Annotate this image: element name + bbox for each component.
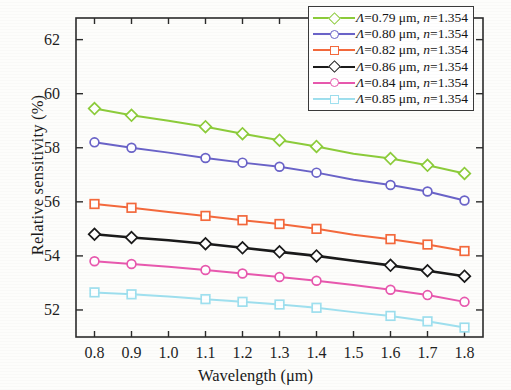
data-marker [201,295,210,304]
legend-swatch [313,76,355,90]
data-marker [275,273,284,282]
legend-item[interactable]: Λ=0.79 μm, n=1.354 [313,10,468,26]
legend-swatch [313,43,355,57]
legend-label: Λ=0.86 μm, n=1.354 [356,59,468,75]
legend-marker [328,12,341,25]
data-marker [385,153,397,165]
data-marker [275,220,284,229]
data-marker [274,134,286,146]
data-marker [386,235,395,244]
data-marker [90,200,99,209]
data-marker [459,168,471,180]
data-marker [201,154,210,163]
legend-swatch [313,60,355,74]
data-marker [422,265,434,277]
legend-item[interactable]: Λ=0.85 μm, n=1.354 [313,91,468,107]
data-marker [201,212,210,221]
data-marker [90,138,99,147]
data-marker [311,250,323,262]
legend-swatch [313,92,355,106]
data-marker [312,225,321,234]
chart-figure: 525456586062 0.80.91.01.11.21.31.41.51.6… [0,0,511,390]
data-marker [423,291,432,300]
legend-marker [328,60,341,73]
y-axis-title: Relative sensitivity (%) [28,45,48,305]
data-marker [238,158,247,167]
data-marker [90,288,99,297]
data-marker [89,103,101,115]
legend-marker [330,46,339,55]
legend-label: Λ=0.79 μm, n=1.354 [356,10,468,26]
data-marker [386,312,395,321]
series-line [90,257,469,306]
data-marker [201,266,210,275]
data-marker [386,181,395,190]
legend-item[interactable]: Λ=0.86 μm, n=1.354 [313,59,468,75]
data-marker [385,260,397,272]
data-marker [238,269,247,278]
legend-item[interactable]: Λ=0.82 μm, n=1.354 [313,42,468,58]
data-marker [90,257,99,266]
legend-swatch [313,11,355,25]
data-marker [460,297,469,306]
x-tick-label: 1.8 [435,344,495,362]
data-marker [275,300,284,309]
data-marker [312,276,321,285]
data-marker [127,260,136,269]
data-marker [126,110,138,122]
data-marker [238,298,247,307]
series-line [90,288,469,332]
legend: Λ=0.79 μm, n=1.354Λ=0.80 μm, n=1.354Λ=0.… [308,6,474,111]
legend-marker [330,95,339,104]
data-marker [460,323,469,332]
data-marker [422,160,434,172]
data-marker [311,141,323,153]
legend-label: Λ=0.80 μm, n=1.354 [356,26,468,42]
legend-item[interactable]: Λ=0.84 μm, n=1.354 [313,75,468,91]
data-marker [200,121,212,133]
data-marker [127,143,136,152]
data-marker [460,247,469,256]
legend-marker [330,30,339,39]
data-marker [274,246,286,258]
legend-swatch [313,27,355,41]
x-axis-tick-labels: 0.80.91.01.11.21.31.41.51.61.71.8 [0,344,511,368]
data-marker [200,238,212,250]
data-marker [127,290,136,299]
data-marker [423,317,432,326]
series-path [95,292,465,327]
data-marker [127,203,136,212]
data-marker [312,168,321,177]
data-marker [423,187,432,196]
data-marker [423,240,432,249]
data-marker [275,162,284,171]
data-marker [237,242,249,254]
legend-item[interactable]: Λ=0.80 μm, n=1.354 [313,26,468,42]
data-marker [89,228,101,240]
series-line [90,138,469,205]
legend-label: Λ=0.82 μm, n=1.354 [356,42,468,58]
legend-label: Λ=0.84 μm, n=1.354 [356,75,468,91]
data-marker [126,232,138,244]
legend-marker [330,78,339,87]
data-marker [460,196,469,205]
data-marker [386,285,395,294]
data-marker [312,304,321,313]
x-axis-title: Wavelength (μm) [0,366,511,386]
data-marker [459,270,471,282]
data-marker [237,128,249,140]
legend-label: Λ=0.85 μm, n=1.354 [356,91,468,107]
data-marker [238,216,247,225]
